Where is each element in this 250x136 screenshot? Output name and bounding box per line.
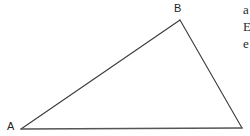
vertex-label-b: B (174, 3, 181, 14)
clipped-text-column: a E e (243, 0, 250, 56)
triangle-figure (0, 0, 250, 136)
figure-canvas: A B a E e (0, 0, 250, 136)
clipped-text-line-3: e (243, 37, 250, 50)
triangle-edge-ab (21, 20, 180, 129)
triangle-edge-bc (180, 20, 242, 128)
triangle-edge-ca (21, 128, 242, 129)
clipped-text-line-1: a (243, 3, 250, 16)
vertex-label-a: A (7, 121, 14, 132)
clipped-text-line-2: E (243, 20, 250, 33)
